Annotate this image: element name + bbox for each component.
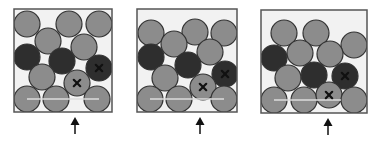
panel-3 xyxy=(261,10,367,135)
gray-particle xyxy=(56,11,82,37)
gray-particle xyxy=(14,11,40,37)
up-arrow-icon xyxy=(196,117,205,134)
panel-1 xyxy=(14,9,112,134)
gray-particle xyxy=(341,32,367,58)
gray-particle xyxy=(287,40,313,66)
dark-particle xyxy=(175,52,201,78)
particle-diagram xyxy=(0,0,380,145)
up-arrow-icon xyxy=(71,117,80,134)
gray-particle xyxy=(341,87,367,113)
panel-2 xyxy=(137,9,238,134)
particles-group xyxy=(137,19,238,112)
gray-particle xyxy=(29,64,55,90)
gray-particle xyxy=(138,20,164,46)
gray-particle xyxy=(275,65,301,91)
gray-particle xyxy=(317,41,343,67)
gray-particle xyxy=(86,11,112,37)
particles-group xyxy=(14,11,112,112)
particles-group xyxy=(261,20,367,113)
up-arrow-icon xyxy=(324,118,333,135)
